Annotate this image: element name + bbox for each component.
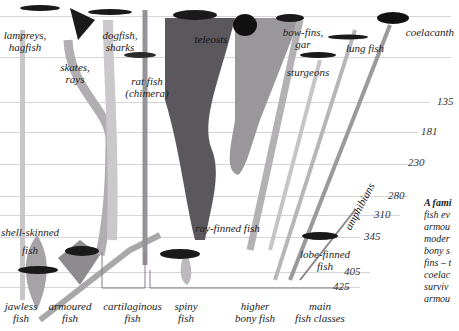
caption-line: fins – t	[424, 257, 452, 269]
caption-line: armou	[424, 293, 452, 305]
caption-line: armou	[424, 221, 452, 233]
label-jawless: jawless fish	[0, 300, 42, 324]
label-bowfins: bow-fins, gar	[278, 26, 328, 50]
label-skates: skates, rays	[55, 61, 95, 85]
label-ray-finned: ray-finned fish	[190, 222, 265, 234]
age-405: 405	[344, 265, 361, 277]
age-345: 345	[364, 230, 381, 242]
age-230: 230	[408, 156, 425, 168]
label-teleosts: teleosts	[186, 33, 236, 45]
label-cartilaginous: cartilaginous fish	[100, 300, 165, 324]
caption-line: coelac	[424, 269, 452, 281]
caption: A fami fish ev armou moder bony s fins –…	[424, 197, 452, 305]
age-181: 181	[421, 125, 438, 137]
label-dogfish: dogfish, sharks	[95, 29, 145, 53]
caption-line: bony s	[424, 245, 452, 257]
label-main-classes: main fish classes	[290, 300, 350, 324]
age-280: 280	[388, 189, 405, 201]
label-coelacanth: coelacanth	[400, 26, 459, 38]
age-425: 425	[333, 280, 350, 292]
caption-line: moder	[424, 233, 452, 245]
label-lampreys: lampreys, hagfish	[0, 29, 50, 53]
caption-heading: A fami	[424, 197, 452, 209]
label-armoured: armoured fish	[45, 300, 95, 324]
caption-line: surviv	[424, 281, 452, 293]
age-135: 135	[437, 95, 454, 107]
label-higher-bony: higher bony fish	[225, 300, 285, 324]
label-shell-skinned: shell-skinned fish	[0, 223, 60, 259]
label-lungfish: lung fish	[340, 42, 390, 54]
caption-line: fish ev	[424, 209, 452, 221]
age-310: 310	[374, 208, 391, 220]
label-spiny: spiny fish	[168, 300, 204, 324]
label-sturgeons: sturgeons	[278, 66, 338, 78]
label-ratfish: rat fish (chimera)	[122, 75, 172, 99]
